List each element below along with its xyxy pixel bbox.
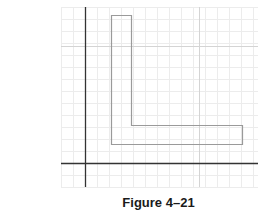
- coordinate-axes: [61, 7, 258, 187]
- grid-major-lines: [61, 7, 258, 187]
- figure-caption: Figure 4–21: [0, 195, 270, 210]
- grid-minor-lines: [61, 7, 258, 188]
- figure-4-21-diagram: [0, 0, 270, 219]
